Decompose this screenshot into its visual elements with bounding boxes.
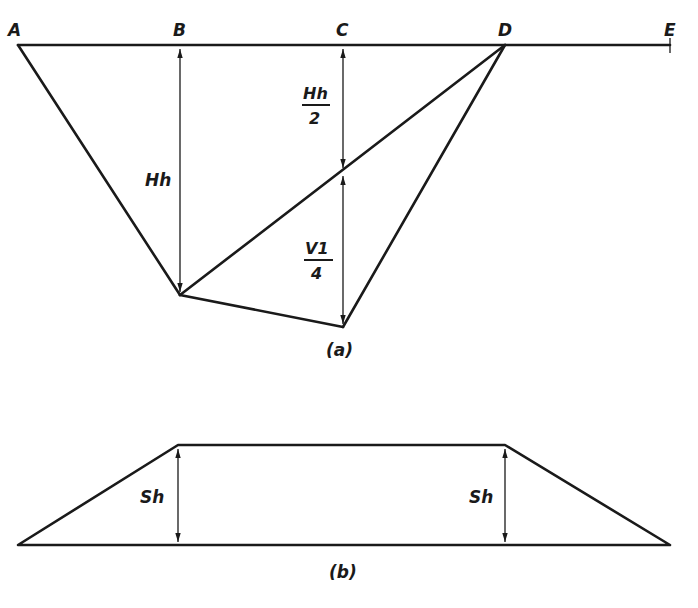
dimension-label-sh-left: Sh — [140, 487, 164, 507]
caption-a: (a) — [326, 340, 353, 360]
fraction-denominator: 4 — [310, 264, 322, 283]
edge-lower-b-to-lower-c — [180, 295, 343, 327]
dimension-label-hh-half: Hh 2 — [302, 84, 330, 128]
cable-deflection-diagram: A B C D E Hh Hh 2 V1 4 (a) Sh Sh ( — [0, 0, 698, 608]
dimension-label-v1-quarter: V1 4 — [304, 239, 333, 283]
point-label-e: E — [664, 20, 676, 40]
fraction-numerator: Hh — [303, 84, 328, 103]
point-label-d: D — [498, 20, 512, 40]
point-label-b: B — [173, 20, 186, 40]
caption-b: (b) — [329, 562, 357, 582]
point-label-c: C — [336, 20, 349, 40]
dimension-label-hh: Hh — [145, 170, 171, 190]
trapezoid-outline — [18, 445, 670, 545]
point-label-a: A — [6, 20, 21, 40]
fraction-denominator: 2 — [309, 109, 320, 128]
edge-lower-c-to-d — [343, 45, 505, 327]
figure-a: A B C D E Hh Hh 2 V1 4 (a) — [6, 20, 676, 360]
fraction-numerator: V1 — [305, 239, 329, 258]
dimension-label-sh-right: Sh — [469, 487, 493, 507]
figure-b: Sh Sh (b) — [18, 445, 670, 582]
